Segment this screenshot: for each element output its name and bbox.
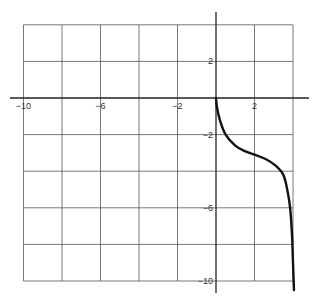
x-tick-label: −10 bbox=[16, 101, 31, 111]
x-tick-label: 2 bbox=[252, 101, 257, 111]
data-curve bbox=[216, 98, 294, 290]
y-tick-label: −2 bbox=[203, 130, 213, 140]
chart: −10−6−222−2−6−10 bbox=[0, 0, 314, 304]
axes bbox=[10, 12, 309, 293]
x-tick-label: −6 bbox=[95, 101, 105, 111]
x-tick-label: −2 bbox=[172, 101, 182, 111]
y-tick-label: −10 bbox=[198, 276, 213, 286]
y-tick-label: 2 bbox=[208, 56, 213, 66]
y-tick-label: −6 bbox=[203, 203, 213, 213]
